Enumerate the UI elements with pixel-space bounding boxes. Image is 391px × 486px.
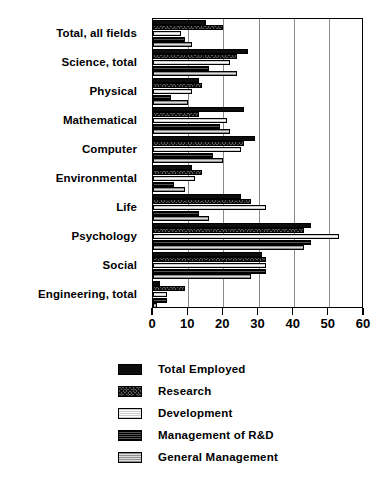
legend-item-4: General Management <box>118 446 378 468</box>
bar-7-1 <box>153 228 304 233</box>
category-axis-labels: Total, all fieldsScience, totalPhysicalM… <box>0 18 143 308</box>
bar-5-1 <box>153 170 202 175</box>
bar-1-4 <box>153 71 237 76</box>
bar-6-2 <box>153 205 266 210</box>
plot-area <box>152 18 363 308</box>
bar-group-2 <box>153 77 362 106</box>
legend-label-4: General Management <box>158 451 278 463</box>
bar-9-2 <box>153 292 167 297</box>
bar-0-1 <box>153 25 223 30</box>
bar-5-4 <box>153 187 185 192</box>
bar-8-2 <box>153 263 266 268</box>
bar-0-4 <box>153 42 192 47</box>
gray-swatch <box>118 452 142 463</box>
category-label-5: Environmental <box>56 172 137 184</box>
bar-7-0 <box>153 223 311 228</box>
x-axis-tick-labels: 0102030405060 <box>0 316 391 336</box>
solid-black-swatch <box>118 364 142 375</box>
dark-lines-swatch <box>118 430 142 441</box>
bar-6-1 <box>153 199 251 204</box>
chart-legend: Total EmployedResearchDevelopmentManagem… <box>118 358 378 468</box>
category-label-4: Computer <box>82 143 137 155</box>
x-tick-20 <box>222 308 223 315</box>
bar-5-3 <box>153 182 174 187</box>
bar-8-1 <box>153 257 266 262</box>
category-label-0: Total, all fields <box>56 27 137 39</box>
bar-group-5 <box>153 164 362 193</box>
bar-chart: Total, all fieldsScience, totalPhysicalM… <box>0 0 391 348</box>
bar-3-3 <box>153 124 220 129</box>
bar-0-3 <box>153 37 185 42</box>
x-tick-label-50: 50 <box>321 316 335 331</box>
bar-2-1 <box>153 83 202 88</box>
bar-4-4 <box>153 158 223 163</box>
bar-2-0 <box>153 78 199 83</box>
x-tick-label-40: 40 <box>285 316 299 331</box>
bar-4-0 <box>153 136 255 141</box>
bar-9-0 <box>153 281 160 286</box>
bar-8-4 <box>153 274 251 279</box>
bar-2-4 <box>153 100 188 105</box>
bar-0-0 <box>153 20 206 25</box>
x-tick-10 <box>187 308 188 315</box>
legend-label-0: Total Employed <box>158 363 246 375</box>
x-tick-label-10: 10 <box>180 316 194 331</box>
bar-1-1 <box>153 54 237 59</box>
x-tick-label-20: 20 <box>215 316 229 331</box>
bar-3-4 <box>153 129 230 134</box>
bars-layer <box>153 19 362 307</box>
bar-group-7 <box>153 222 362 251</box>
x-tick-50 <box>327 308 328 315</box>
bar-group-3 <box>153 106 362 135</box>
x-tick-30 <box>257 308 258 315</box>
category-label-2: Physical <box>90 85 137 97</box>
x-tick-label-60: 60 <box>356 316 370 331</box>
bar-group-6 <box>153 193 362 222</box>
bar-2-2 <box>153 89 192 94</box>
x-tick-40 <box>292 308 293 315</box>
bar-7-3 <box>153 240 311 245</box>
bar-4-2 <box>153 147 241 152</box>
x-tick-label-0: 0 <box>148 316 155 331</box>
bar-1-3 <box>153 66 209 71</box>
legend-item-0: Total Employed <box>118 358 378 380</box>
bar-7-2 <box>153 234 339 239</box>
category-label-9: Engineering, total <box>38 288 137 300</box>
bar-group-9 <box>153 280 362 309</box>
category-label-3: Mathematical <box>63 114 137 126</box>
category-label-8: Social <box>103 259 137 271</box>
crosshatch-swatch <box>118 386 142 397</box>
light-swatch <box>118 408 142 419</box>
bar-8-0 <box>153 252 262 257</box>
legend-item-3: Management of R&D <box>118 424 378 446</box>
category-label-1: Science, total <box>61 56 137 68</box>
bar-group-0 <box>153 19 362 48</box>
x-tick-label-30: 30 <box>250 316 264 331</box>
bar-5-0 <box>153 165 192 170</box>
legend-label-2: Development <box>158 407 232 419</box>
category-label-7: Psychology <box>71 230 137 242</box>
bar-3-2 <box>153 118 227 123</box>
bar-2-3 <box>153 95 171 100</box>
bar-9-1 <box>153 286 185 291</box>
bar-group-8 <box>153 251 362 280</box>
legend-label-3: Management of R&D <box>158 429 274 441</box>
legend-item-1: Research <box>118 380 378 402</box>
bar-8-3 <box>153 269 266 274</box>
bar-3-0 <box>153 107 244 112</box>
category-label-6: Life <box>116 201 137 213</box>
bar-7-4 <box>153 245 304 250</box>
bar-1-0 <box>153 49 248 54</box>
bar-group-1 <box>153 48 362 77</box>
bar-0-2 <box>153 31 181 36</box>
bar-group-4 <box>153 135 362 164</box>
bar-9-3 <box>153 298 167 303</box>
legend-label-1: Research <box>158 385 211 397</box>
x-tick-0 <box>151 308 152 315</box>
x-tick-60 <box>362 308 363 315</box>
bar-4-1 <box>153 141 244 146</box>
bar-5-2 <box>153 176 195 181</box>
bar-6-0 <box>153 194 241 199</box>
bar-4-3 <box>153 153 213 158</box>
bar-6-4 <box>153 216 209 221</box>
